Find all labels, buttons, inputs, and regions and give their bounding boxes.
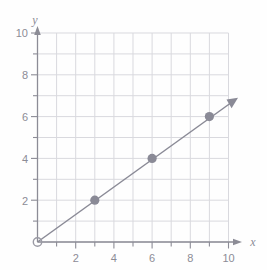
- coordinate-plane-chart: 2 4 6 8 10 2 4 6 8 10 y x: [0, 0, 267, 270]
- y-tick-label-4: 4: [22, 153, 28, 165]
- y-axis-label: y: [31, 13, 38, 27]
- x-tick-label-2: 2: [73, 252, 79, 264]
- y-tick-label-8: 8: [22, 69, 28, 81]
- data-point-6-4: [148, 154, 157, 163]
- y-tick-label-6: 6: [22, 111, 28, 123]
- chart-svg: 2 4 6 8 10 2 4 6 8 10 y x: [0, 0, 267, 270]
- x-tick-label-6: 6: [149, 252, 155, 264]
- data-point-3-2: [90, 196, 99, 205]
- x-tick-label-4: 4: [111, 252, 117, 264]
- y-tick-label-10: 10: [16, 27, 28, 39]
- x-axis-label: x: [249, 235, 256, 249]
- data-point-9-6: [205, 112, 214, 121]
- x-tick-label-8: 8: [187, 252, 193, 264]
- x-tick-label-10: 10: [222, 252, 234, 264]
- y-tick-label-2: 2: [22, 195, 28, 207]
